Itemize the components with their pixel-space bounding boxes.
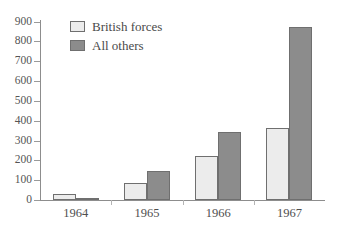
legend-swatch-icon	[70, 21, 85, 32]
bar-1964-british-forces	[53, 194, 76, 200]
legend-swatch-icon	[70, 40, 85, 51]
legend-item-all-others: All others	[70, 36, 162, 55]
legend-item-british-forces: British forces	[70, 17, 162, 36]
y-axis-tick-label: 500	[0, 95, 32, 107]
y-axis-tick-label: 600	[0, 75, 32, 87]
x-axis-label-1964: 1964	[41, 205, 111, 221]
y-axis-tick-label: 800	[0, 35, 32, 47]
bar-1964-all-others	[76, 198, 99, 200]
y-axis-tick-label: 0	[0, 194, 32, 206]
y-axis-tick-label: 100	[0, 174, 32, 186]
x-axis-label-1966: 1966	[183, 205, 253, 221]
y-axis-tick-label: 700	[0, 55, 32, 67]
y-axis-tick-label: 400	[0, 115, 32, 127]
bar-1967-british-forces	[266, 128, 289, 200]
bar-1965-all-others	[147, 171, 170, 200]
bar-1966-all-others	[218, 132, 241, 200]
bar-1967-all-others	[289, 27, 312, 200]
legend-label: All others	[92, 39, 144, 52]
x-axis-label-1967: 1967	[254, 205, 324, 221]
bar-chart: 0100200300400500600700800900 19641965196…	[0, 0, 338, 235]
bar-1966-british-forces	[195, 156, 218, 200]
chart-legend: British forcesAll others	[70, 17, 162, 55]
y-axis-tick-label: 300	[0, 135, 32, 147]
bar-1965-british-forces	[124, 183, 147, 200]
y-axis-tick-label: 200	[0, 154, 32, 166]
legend-label: British forces	[92, 20, 162, 33]
y-axis-tick-label: 900	[0, 16, 32, 28]
x-axis-label-1965: 1965	[112, 205, 182, 221]
